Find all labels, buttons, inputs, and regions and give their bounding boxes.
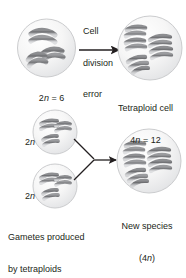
new-species-caption: New species (4n) (108, 200, 186, 278)
process-label-line1: Cell (83, 26, 128, 37)
new-species-caption-line2: (4n) (108, 253, 186, 264)
parent-ploidy-text: 2n = 6 (39, 93, 64, 103)
gamete-lower-ploidy-label: 2n (15, 180, 33, 212)
new-species-caption-line1: New species (108, 221, 186, 232)
tetraploid-label-line2: 4n = 12 (105, 135, 186, 146)
parent-cell-ploidy-label: 2n = 6 (16, 82, 77, 114)
process-label-line2: division (83, 58, 128, 69)
gamete-upper-ploidy-label: 2n (15, 126, 33, 158)
gamete-lower-ploidy-text: 2n (25, 191, 35, 201)
gametes-caption-line1: Gametes produced (8, 232, 113, 243)
diploid-parent-cell (18, 19, 76, 77)
gamete-cell-upper (33, 110, 77, 154)
gamete-cell-lower (33, 164, 77, 208)
gamete-upper-ploidy-text: 2n (25, 137, 35, 147)
tetraploid-cell-label: Tetraploid cell 4n = 12 (105, 82, 186, 166)
tetraploid-label-line1: Tetraploid cell (105, 103, 186, 114)
gametes-caption-line2: by tetraploids (8, 264, 113, 275)
gametes-caption: Gametes produced by tetraploids (8, 211, 113, 278)
